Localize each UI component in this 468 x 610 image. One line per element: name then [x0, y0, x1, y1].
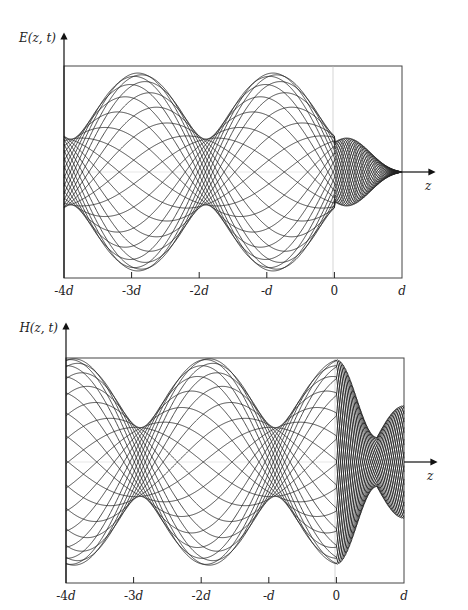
tick-label: 0: [331, 284, 339, 298]
panel-h: H(z, t) z -4d-3d-2d-d0d: [18, 321, 434, 603]
tick-label: -4d: [54, 284, 74, 298]
panel-e: E(z, t) z -4d-3d-2d-d0d: [18, 31, 432, 298]
x-ticks: -4d-3d-2d-d0d: [56, 577, 408, 603]
figure: E(z, t) z -4d-3d-2d-d0d H(z, t) z -4d-3d…: [0, 0, 468, 610]
tick-label: -d: [263, 589, 275, 603]
z-axis-label: z: [426, 469, 434, 483]
tick-label: -2d: [192, 589, 212, 603]
tick-label: 0: [333, 589, 341, 603]
tick-label: -4d: [56, 589, 76, 603]
tick-label: -3d: [122, 284, 142, 298]
y-axis-label: E(z, t): [18, 31, 56, 45]
tick-label: d: [398, 284, 406, 298]
tick-label: -d: [261, 284, 273, 298]
tick-label: -3d: [124, 589, 144, 603]
tick-label: -2d: [190, 284, 210, 298]
x-ticks: -4d-3d-2d-d0d: [54, 272, 406, 298]
z-axis-label: z: [424, 179, 432, 193]
tick-label: d: [400, 589, 408, 603]
y-axis-label: H(z, t): [18, 321, 58, 335]
